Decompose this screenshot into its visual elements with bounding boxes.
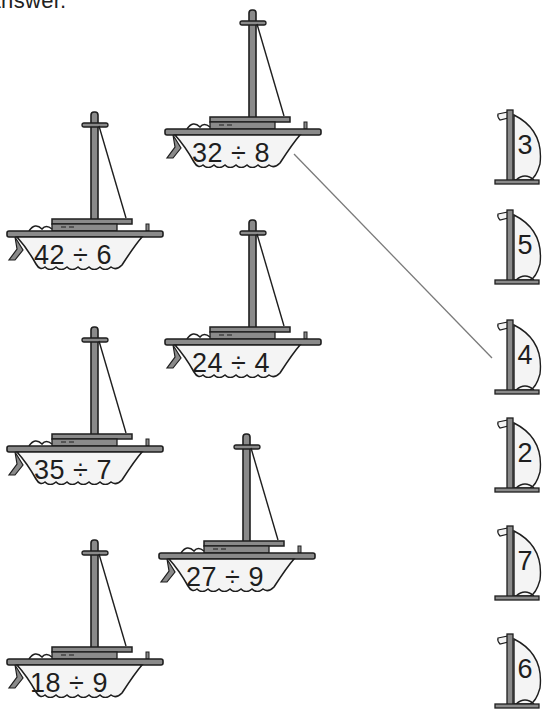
problem-boat-1[interactable]: 32 ÷ 8 — [163, 8, 323, 168]
division-problem: 24 ÷ 4 — [171, 348, 291, 379]
answer-sailboat-4[interactable]: 2 — [492, 416, 542, 496]
answer-value: 3 — [510, 130, 540, 161]
problem-boat-6[interactable]: 18 ÷ 9 — [5, 538, 165, 698]
answer-sailboat-5[interactable]: 7 — [492, 524, 542, 604]
answer-value: 7 — [510, 546, 540, 577]
problem-boat-2[interactable]: 42 ÷ 6 — [5, 110, 165, 270]
problem-boat-5[interactable]: 27 ÷ 9 — [157, 432, 317, 592]
division-problem: 32 ÷ 8 — [171, 138, 291, 169]
division-problem: 27 ÷ 9 — [165, 562, 285, 593]
division-problem: 18 ÷ 9 — [9, 668, 129, 699]
answer-value: 2 — [510, 438, 540, 469]
answer-sailboat-3[interactable]: 4 — [492, 318, 542, 398]
answer-sailboat-1[interactable]: 3 — [492, 108, 542, 188]
problem-boat-4[interactable]: 35 ÷ 7 — [5, 325, 165, 485]
instruction-text: er answer. — [0, 0, 67, 14]
answer-sailboat-2[interactable]: 5 — [492, 208, 542, 288]
answer-value: 6 — [510, 654, 540, 685]
division-problem: 42 ÷ 6 — [13, 240, 133, 271]
answer-value: 5 — [510, 230, 540, 261]
answer-value: 4 — [510, 340, 540, 371]
answer-sailboat-6[interactable]: 6 — [492, 632, 542, 712]
problem-boat-3[interactable]: 24 ÷ 4 — [163, 218, 323, 378]
division-problem: 35 ÷ 7 — [13, 455, 133, 486]
